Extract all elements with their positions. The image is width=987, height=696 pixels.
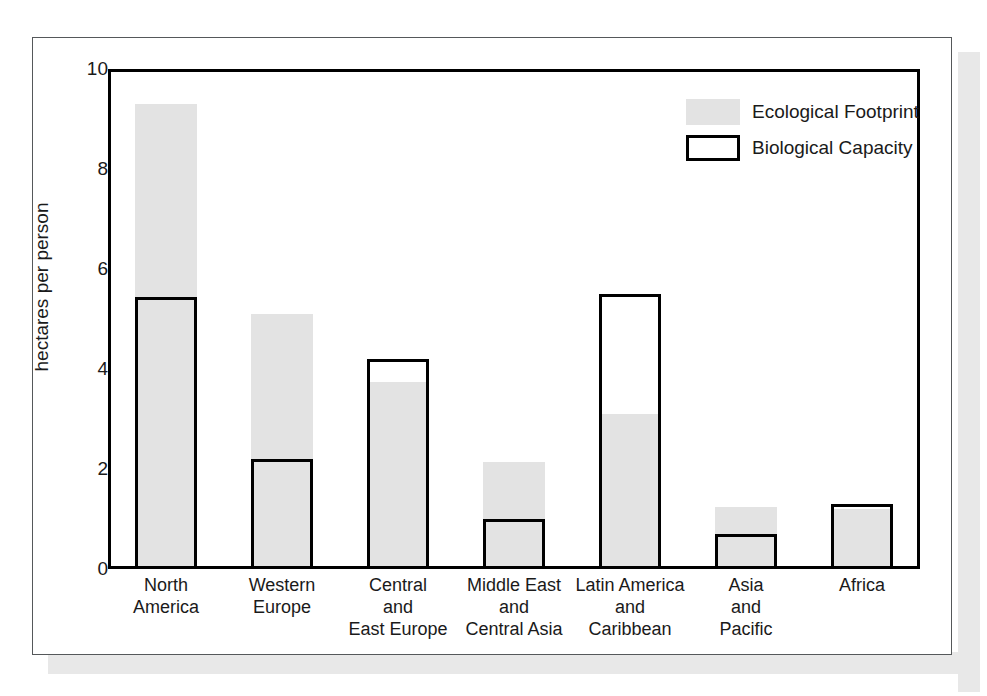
y-axis-ticks: 0246810 [52, 69, 108, 569]
bar-biological-capacity [251, 459, 313, 569]
legend-swatch-fill [686, 99, 740, 125]
bar-group [135, 69, 197, 569]
legend-swatch-outline [686, 135, 740, 161]
y-tick-label: 4 [62, 358, 108, 380]
bar-group [599, 69, 661, 569]
y-tick-label: 6 [62, 258, 108, 280]
legend-item: Ecological Footprint [686, 94, 916, 130]
bar-group [367, 69, 429, 569]
bar-biological-capacity [715, 534, 777, 569]
bar-biological-capacity [599, 294, 661, 569]
x-axis-category-line: Pacific [671, 618, 821, 640]
bar-group [251, 69, 313, 569]
page-shadow-bottom [48, 652, 980, 674]
y-tick-label: 10 [62, 58, 108, 80]
legend-label: Biological Capacity [752, 137, 913, 159]
bar-group [483, 69, 545, 569]
page-shadow-right [958, 52, 980, 692]
y-tick-label: 2 [62, 458, 108, 480]
x-axis-category-line: Africa [787, 574, 937, 596]
bar-biological-capacity [483, 519, 545, 569]
legend-label: Ecological Footprint [752, 101, 919, 123]
bar-biological-capacity [135, 297, 197, 570]
bar-biological-capacity [367, 359, 429, 569]
x-axis-category-label: Africa [787, 574, 937, 596]
x-axis-category-line: and [671, 596, 821, 618]
chart-legend: Ecological FootprintBiological Capacity [686, 94, 916, 166]
bar-biological-capacity [831, 504, 893, 569]
y-axis-label: hectares per person [31, 127, 53, 447]
x-axis-labels: NorthAmericaWesternEuropeCentralandEast … [108, 574, 920, 654]
y-tick-label: 8 [62, 158, 108, 180]
legend-item: Biological Capacity [686, 130, 916, 166]
